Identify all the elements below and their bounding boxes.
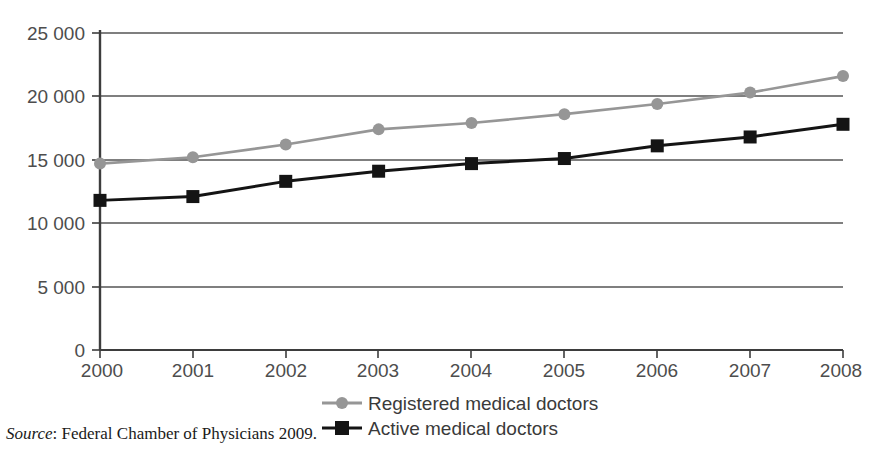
- legend-marker-circle-icon: [336, 397, 348, 409]
- data-point-square-icon: [186, 190, 199, 203]
- x-tick-label-2002: 2002: [265, 360, 307, 381]
- data-point-circle-icon: [373, 123, 385, 135]
- data-series-layer: [94, 70, 850, 207]
- legend-item-active[interactable]: Active medical doctors: [322, 418, 558, 439]
- source-text: Federal Chamber of Physicians 2009.: [57, 424, 317, 443]
- y-tick-label-15000: 15 000: [27, 150, 85, 171]
- data-point-square-icon: [279, 175, 292, 188]
- series-active: [94, 118, 850, 207]
- legend-marker-square-icon: [335, 421, 349, 435]
- legend-label-registered: Registered medical doctors: [368, 393, 598, 414]
- y-tick-label-25000: 25 000: [27, 23, 85, 44]
- data-point-circle-icon: [558, 108, 570, 120]
- x-tick-label-2006: 2006: [636, 360, 678, 381]
- x-tick-label-2008: 2008: [820, 360, 862, 381]
- data-point-square-icon: [837, 118, 850, 131]
- axes: [100, 30, 843, 350]
- data-point-square-icon: [744, 130, 757, 143]
- y-tick-label-10000: 10 000: [27, 213, 85, 234]
- data-point-square-icon: [94, 194, 107, 207]
- data-point-square-icon: [372, 165, 385, 178]
- legend-item-registered[interactable]: Registered medical doctors: [322, 393, 598, 414]
- x-tick-label-2001: 2001: [172, 360, 214, 381]
- y-tick-label-5000: 5 000: [37, 277, 85, 298]
- data-point-circle-icon: [466, 117, 478, 129]
- y-axis-tick-labels: 25 000 20 000 15 000 10 000 5 000 0: [27, 23, 85, 361]
- data-point-circle-icon: [187, 151, 199, 163]
- line-chart: 25 000 20 000 15 000 10 000 5 000 0 2000…: [0, 0, 880, 450]
- chart-figure: 25 000 20 000 15 000 10 000 5 000 0 2000…: [0, 0, 880, 450]
- x-tick-label-2005: 2005: [543, 360, 585, 381]
- source-label: Source: [6, 424, 53, 443]
- data-point-square-icon: [465, 157, 478, 170]
- x-tick-label-2003: 2003: [357, 360, 399, 381]
- data-point-square-icon: [558, 152, 571, 165]
- data-point-circle-icon: [744, 87, 756, 99]
- y-tick-label-0: 0: [74, 340, 85, 361]
- series-registered: [94, 70, 849, 169]
- y-tick-label-20000: 20 000: [27, 86, 85, 107]
- data-point-square-icon: [651, 139, 664, 152]
- data-point-circle-icon: [280, 139, 292, 151]
- x-tick-label-2000: 2000: [81, 360, 123, 381]
- data-point-circle-icon: [837, 70, 849, 82]
- data-point-circle-icon: [94, 158, 106, 170]
- source-note: Source: Federal Chamber of Physicians 20…: [6, 424, 317, 444]
- legend-label-active: Active medical doctors: [368, 418, 558, 439]
- x-axis-ticks: [100, 350, 843, 358]
- chart-legend: Registered medical doctors Active medica…: [322, 393, 598, 439]
- data-point-circle-icon: [651, 98, 663, 110]
- x-axis-tick-labels: 2000 2001 2002 2003 2004 2005 2006 2007 …: [81, 360, 862, 381]
- x-tick-label-2004: 2004: [450, 360, 493, 381]
- x-tick-label-2007: 2007: [729, 360, 771, 381]
